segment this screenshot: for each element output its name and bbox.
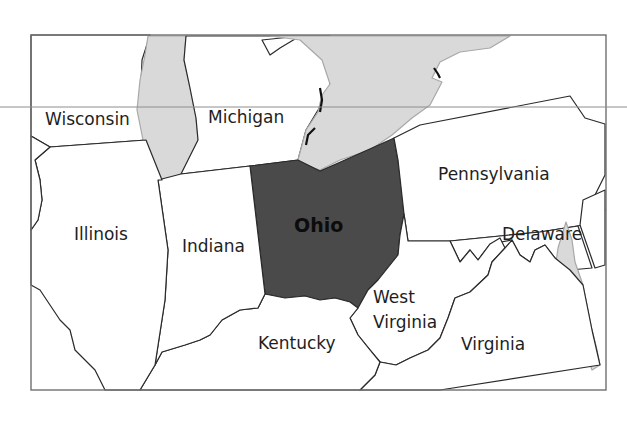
label-pennsylvania: Pennsylvania (438, 164, 550, 184)
label-delaware: Delaware (502, 224, 582, 244)
ohio-region-map: Wisconsin Michigan Pennsylvania Illinois… (0, 0, 627, 422)
label-illinois: Illinois (74, 224, 128, 244)
map-canvas: Wisconsin Michigan Pennsylvania Illinois… (0, 0, 627, 422)
label-ohio[interactable]: Ohio (294, 214, 343, 236)
label-west-virginia-line2: Virginia (373, 312, 437, 332)
label-wisconsin: Wisconsin (45, 109, 130, 129)
label-west-virginia-line1: West (373, 287, 415, 307)
label-michigan: Michigan (208, 107, 284, 127)
state-illinois (31, 140, 168, 390)
label-kentucky: Kentucky (258, 333, 336, 353)
state-wisconsin (31, 35, 150, 147)
label-virginia: Virginia (461, 334, 525, 354)
label-indiana: Indiana (182, 236, 245, 256)
